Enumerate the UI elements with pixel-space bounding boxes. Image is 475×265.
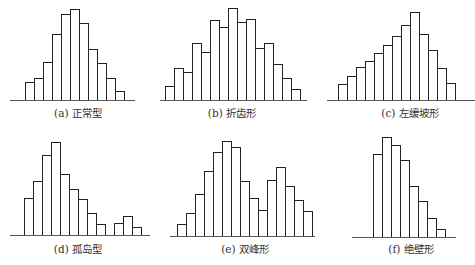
histogram-bar	[383, 138, 392, 238]
histogram-bar	[392, 146, 401, 238]
histogram-bar	[429, 51, 438, 101]
histogram-bar	[187, 214, 196, 237]
histogram-bar	[286, 187, 295, 237]
histogram-bar	[166, 87, 175, 101]
histogram-bar	[437, 230, 446, 238]
histogram-bar	[214, 153, 223, 237]
histogram-bar	[52, 143, 61, 236]
histogram-bar	[357, 68, 366, 101]
histogram-bar	[438, 69, 447, 101]
caption-normal: (a) 正常型	[54, 105, 102, 120]
histogram-bar	[393, 37, 402, 101]
histogram-bar	[53, 35, 62, 101]
histogram-bar	[34, 182, 43, 236]
histogram-bar	[196, 195, 205, 237]
histogram-bar	[79, 200, 88, 236]
histogram-bar	[26, 83, 35, 101]
histogram-bar	[402, 26, 411, 101]
histogram-bar	[428, 219, 437, 238]
histogram-bar	[71, 10, 80, 101]
histogram-bar	[411, 13, 420, 101]
histogram-bar	[223, 142, 232, 237]
histogram-bar	[339, 85, 348, 101]
histogram-bar	[259, 211, 268, 237]
histogram-bar	[133, 228, 142, 236]
histogram-bar	[447, 84, 456, 101]
histogram-bar	[292, 90, 301, 101]
histogram-bar	[184, 73, 193, 101]
histogram-bar	[295, 201, 304, 237]
histogram-isolated-island	[10, 143, 150, 236]
histogram-bar	[115, 224, 124, 236]
histogram-bar	[193, 44, 202, 101]
caption-cliff: (f) 绝壁形	[388, 241, 433, 256]
histogram-bar	[410, 187, 419, 238]
histogram-bar	[43, 156, 52, 236]
histogram-bar	[238, 23, 247, 101]
histogram-bar	[384, 46, 393, 101]
histogram-figure	[0, 0, 475, 265]
histogram-bar	[70, 190, 79, 236]
histogram-bar	[88, 214, 97, 236]
histogram-bar	[202, 53, 211, 101]
histogram-bar	[229, 9, 238, 101]
histogram-bar	[97, 225, 106, 236]
histogram-left-skew	[327, 13, 475, 101]
caption-left-skew: (c) 左缓坡形	[381, 105, 438, 120]
histogram-bar	[348, 77, 357, 101]
histogram-bar	[178, 225, 187, 237]
histogram-bar	[241, 182, 250, 237]
histogram-bar	[80, 24, 89, 101]
histogram-bar	[175, 69, 184, 101]
histogram-bar	[62, 15, 71, 101]
histogram-bar	[304, 212, 313, 237]
histogram-bar	[366, 62, 375, 101]
caption-bimodal: (e) 双峰形	[221, 241, 269, 256]
histogram-bar	[265, 44, 274, 101]
histogram-bimodal	[170, 142, 315, 237]
histogram-bar	[375, 54, 384, 101]
histogram-bar	[35, 79, 44, 101]
histogram-bar	[247, 20, 256, 101]
histogram-bar	[401, 161, 410, 238]
histogram-normal	[10, 10, 135, 101]
caption-comb: (b) 折齿形	[208, 105, 256, 120]
histogram-bar	[220, 28, 229, 101]
histogram-bar	[61, 175, 70, 236]
histogram-bar	[98, 64, 107, 101]
caption-isolated-island: (d) 孤岛型	[54, 241, 102, 256]
histogram-bar	[419, 202, 428, 238]
histogram-bar	[256, 49, 265, 101]
histogram-bar	[205, 172, 214, 237]
histogram-bar	[274, 65, 283, 101]
histogram-cliff	[352, 138, 456, 238]
histogram-bar	[277, 168, 286, 237]
histogram-bar	[89, 50, 98, 101]
histogram-comb	[160, 9, 307, 101]
histogram-bar	[374, 155, 383, 238]
histogram-bar	[250, 199, 259, 237]
histogram-bar	[124, 217, 133, 236]
histogram-bar	[420, 35, 429, 101]
histogram-bar	[25, 199, 34, 236]
histogram-bar	[44, 63, 53, 101]
histogram-bar	[283, 79, 292, 101]
histogram-bar	[107, 79, 116, 101]
histogram-bar	[232, 148, 241, 237]
histogram-bar	[116, 92, 125, 101]
histogram-bar	[268, 181, 277, 237]
histogram-bar	[211, 21, 220, 101]
